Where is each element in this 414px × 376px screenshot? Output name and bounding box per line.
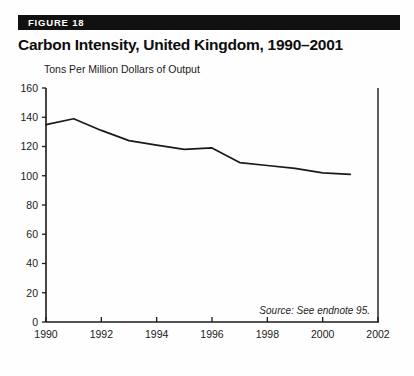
y-tick-label: 120 [20, 140, 38, 152]
x-tick-label: 1990 [34, 328, 58, 340]
chart-plot-area: 020406080100120140160 199019921994199619… [0, 0, 414, 376]
x-tick-label: 1994 [145, 328, 169, 340]
x-tick-label: 1992 [90, 328, 114, 340]
y-tick-label: 140 [20, 111, 38, 123]
y-tick-label: 60 [26, 228, 38, 240]
y-tick-label: 0 [32, 316, 38, 328]
data-series-line [46, 119, 350, 175]
x-tick-label: 1996 [200, 328, 224, 340]
source-note: Source: See endnote 95. [259, 305, 370, 316]
y-tick-label: 20 [26, 287, 38, 299]
y-tick-label: 80 [26, 199, 38, 211]
y-tick-label: 40 [26, 257, 38, 269]
x-tick-label: 1998 [256, 328, 280, 340]
y-tick-label: 160 [20, 82, 38, 94]
y-axis-ticks: 020406080100120140160 [20, 82, 46, 328]
figure-card: FIGURE 18 Carbon Intensity, United Kingd… [0, 0, 414, 376]
x-axis-ticks: 1990199219941996199820002002 [34, 317, 390, 340]
y-tick-label: 100 [20, 170, 38, 182]
x-tick-label: 2002 [366, 328, 390, 340]
line-chart-svg: 020406080100120140160 199019921994199619… [0, 0, 414, 376]
x-tick-label: 2000 [311, 328, 335, 340]
